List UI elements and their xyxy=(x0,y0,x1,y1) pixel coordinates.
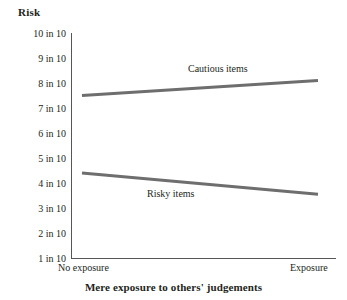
series-label-cautious-items: Cautious items xyxy=(188,63,248,75)
chart-figure: Risk 10 in 10 9 in 10 8 in 10 7 in 10 6 … xyxy=(0,0,347,300)
x-axis-title: Mere exposure to others' judgements xyxy=(0,281,347,293)
series-label-risky-items: Risky items xyxy=(147,188,195,200)
x-tick-label-exposure: Exposure xyxy=(290,262,328,274)
series-plot-area xyxy=(0,0,347,300)
x-tick-label-no-exposure: No exposure xyxy=(58,262,109,274)
series-line-risky-items xyxy=(82,173,318,194)
series-line-cautious-items xyxy=(82,81,318,96)
